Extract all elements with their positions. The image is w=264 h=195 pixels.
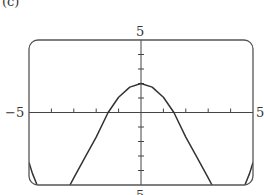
panel-label: (c)	[2, 0, 19, 9]
x-max-label: 5	[256, 105, 264, 120]
y-max-label: 5	[136, 24, 144, 39]
y-min-label: 5	[136, 188, 144, 195]
function-plot: (c) 5 −5 5 5	[0, 0, 264, 195]
x-min-label: −5	[5, 105, 24, 120]
